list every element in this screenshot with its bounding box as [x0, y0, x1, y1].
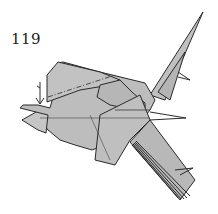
- tail-fan: [130, 120, 195, 200]
- valley-fold-arrow-icon: [36, 82, 44, 104]
- thorn-upper: [178, 72, 190, 80]
- beak: [22, 112, 48, 133]
- thorn-mid: [150, 112, 186, 120]
- upper-spike: [150, 12, 203, 100]
- origami-diagram: [0, 0, 218, 214]
